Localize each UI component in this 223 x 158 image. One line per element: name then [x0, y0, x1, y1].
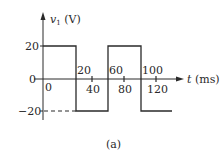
y-axis-label: v1 (V) [50, 13, 81, 27]
x-tick-label-100: 100 [142, 64, 163, 77]
origin-label: 0 [45, 81, 52, 94]
x-axis-label: t (ms) [187, 73, 220, 86]
y-tick-label-0: 0 [29, 73, 36, 86]
x-axis-arrow-icon [176, 77, 184, 82]
x-tick-label-120: 120 [147, 83, 168, 96]
y-axis-arrow-icon [41, 12, 46, 20]
figure-caption: (a) [106, 138, 121, 151]
x-tick-label-60: 60 [109, 64, 123, 77]
y-tick-label-neg20: −20 [18, 105, 41, 118]
x-tick-label-80: 80 [118, 83, 132, 96]
y-tick-label-20: 20 [25, 40, 39, 53]
x-tick-label-20: 20 [77, 64, 91, 77]
x-tick-label-40: 40 [86, 83, 100, 96]
waveform-chart: v1 (V) 20 0 −20 0 20 40 60 80 100 120 t … [0, 0, 223, 158]
